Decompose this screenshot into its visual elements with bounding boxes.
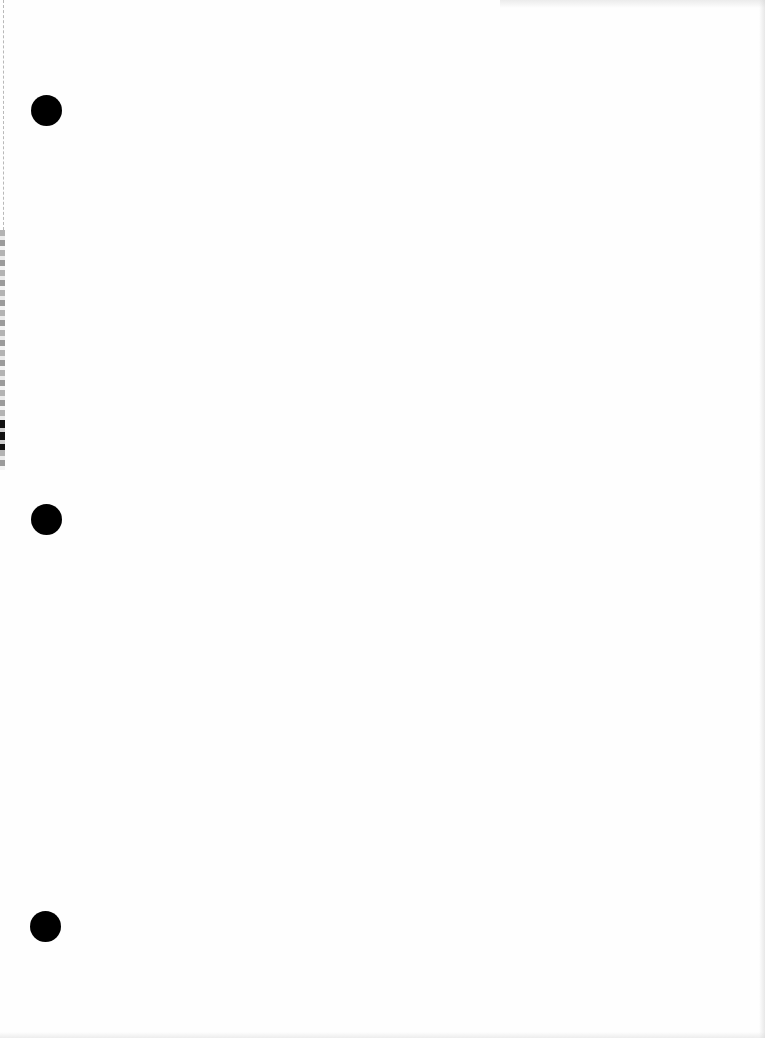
punch-hole-middle — [31, 504, 62, 535]
bottom-edge-shadow — [0, 1032, 765, 1038]
punch-hole-bottom — [30, 911, 61, 942]
blank-paper-sheet — [0, 0, 765, 1038]
top-edge-scan-noise — [500, 0, 765, 8]
scan-artifact-dark-marks — [0, 420, 5, 450]
perforated-margin-edge — [3, 0, 4, 230]
punch-hole-top — [31, 95, 62, 126]
right-edge-shadow — [759, 0, 765, 1038]
